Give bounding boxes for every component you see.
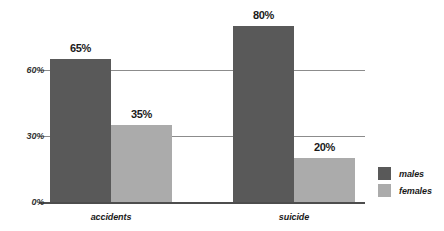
legend-label: females [399, 186, 432, 196]
bar-suicide-males[interactable]: 80% [233, 26, 294, 202]
legend: males females [378, 166, 432, 200]
bar-chart: 60% 30% 0% 65% 35% accidents 80% 20% sui… [0, 0, 444, 231]
x-axis-baseline [39, 202, 365, 204]
bar-value-label: 20% [314, 141, 335, 153]
bar-suicide-females[interactable]: 20% [294, 158, 355, 202]
y-axis-tick-label-60: 60% [27, 65, 44, 75]
y-axis-tick-label-30: 30% [27, 131, 44, 141]
y-axis-tick-label-0: 0% [31, 197, 44, 207]
legend-item-females[interactable]: females [378, 183, 432, 198]
x-axis-category-label-suicide: suicide [279, 212, 309, 222]
plot-area: 60% 30% 0% 65% 35% accidents 80% 20% sui… [48, 10, 365, 202]
bar-accidents-females[interactable]: 35% [111, 125, 172, 202]
legend-swatch-icon [378, 167, 391, 180]
bar-value-label: 35% [131, 108, 152, 120]
legend-swatch-icon [378, 184, 391, 197]
bar-value-label: 65% [70, 42, 91, 54]
legend-label: males [399, 169, 424, 179]
legend-item-males[interactable]: males [378, 166, 432, 181]
bar-accidents-males[interactable]: 65% [50, 59, 111, 202]
x-axis-category-label-accidents: accidents [91, 212, 132, 222]
bar-value-label: 80% [253, 9, 274, 21]
